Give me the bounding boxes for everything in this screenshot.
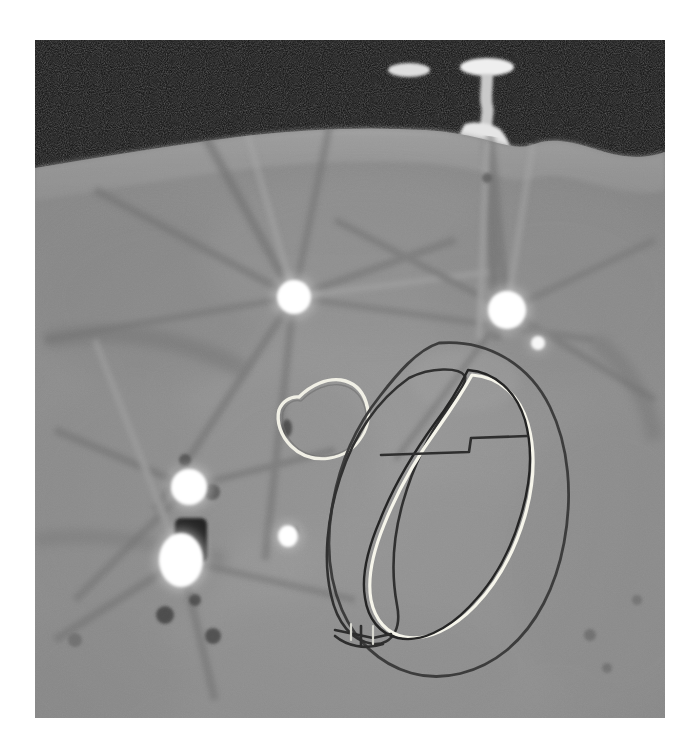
ct-slice-viewer bbox=[0, 0, 695, 751]
ct-image-pane[interactable] bbox=[35, 40, 665, 718]
ct-noise-overlay bbox=[35, 40, 665, 718]
ct-image-canvas[interactable] bbox=[35, 40, 665, 718]
